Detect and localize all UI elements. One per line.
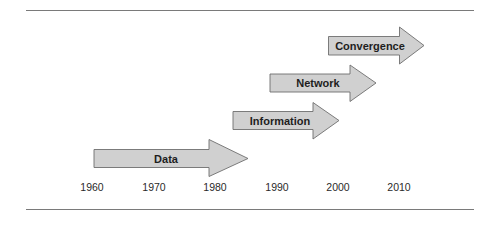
arrow-convergence: Convergence	[329, 27, 425, 64]
year-label-1960: 1960	[72, 181, 112, 193]
arrow-network-label: Network	[296, 77, 340, 89]
year-label-1970: 1970	[134, 181, 174, 193]
year-label-2010: 2010	[379, 181, 419, 193]
arrow-convergence-label: Convergence	[335, 40, 405, 52]
arrow-data: Data	[94, 140, 248, 177]
arrow-information-label: Information	[250, 115, 311, 127]
arrow-network: Network	[270, 65, 376, 102]
year-label-1990: 1990	[257, 181, 297, 193]
year-label-1980: 1980	[195, 181, 235, 193]
arrow-data-label: Data	[154, 153, 179, 165]
arrow-information: Information	[233, 103, 339, 140]
year-label-2000: 2000	[318, 181, 358, 193]
bottom-rule	[26, 209, 474, 210]
